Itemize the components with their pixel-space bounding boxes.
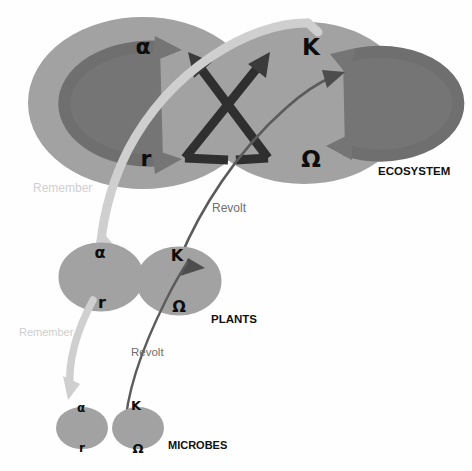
- ecosystem-scale-label: ECOSYSTEM: [378, 165, 450, 177]
- remember-lower-path: [70, 300, 93, 388]
- microbes-phase-k: K: [131, 398, 142, 413]
- level-ecosystem: α r K Ω ECOSYSTEM: [45, 34, 458, 178]
- panarchy-diagram: α r K Ω ECOSYSTEM Remember Revolt α r: [0, 0, 472, 471]
- plants-phase-r: r: [98, 293, 106, 312]
- remember-lower-label: Remember: [19, 326, 74, 338]
- microbes-phase-omega: Ω: [132, 441, 143, 456]
- microbes-left-lobe-band: [62, 413, 102, 443]
- panarchy-svg-canvas: α r K Ω ECOSYSTEM Remember Revolt α r: [0, 0, 472, 471]
- microbes-phase-alpha: α: [77, 401, 85, 415]
- revolt-upper-label: Revolt: [212, 201, 247, 215]
- level-microbes: α r K Ω MICROBES: [62, 398, 227, 456]
- microbes-phase-r: r: [79, 441, 85, 455]
- ecosystem-phase-omega: Ω: [301, 146, 321, 172]
- remember-upper-label: Remember: [33, 181, 92, 195]
- plants-phase-k: K: [171, 246, 184, 265]
- flow-remember-lower: Remember: [19, 300, 93, 400]
- plants-scale-label: PLANTS: [211, 313, 257, 325]
- microbes-right-lobe-band: [118, 413, 158, 443]
- ecosystem-phase-k: K: [302, 34, 321, 60]
- plants-phase-alpha: α: [95, 243, 106, 262]
- ecosystem-phase-r: r: [141, 146, 152, 171]
- plants-phase-omega: Ω: [172, 297, 186, 316]
- revolt-lower-label: Revolt: [131, 346, 164, 358]
- ecosystem-right-cycle-arrow: [326, 48, 458, 160]
- level-plants: α r K Ω PLANTS: [68, 243, 257, 326]
- ecosystem-phase-alpha: α: [135, 34, 150, 59]
- microbes-scale-label: MICROBES: [168, 439, 227, 451]
